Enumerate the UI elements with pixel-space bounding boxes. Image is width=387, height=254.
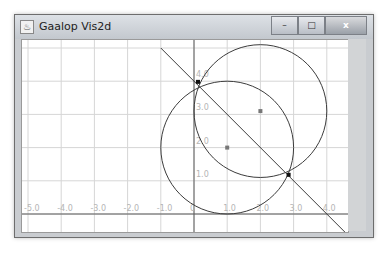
y-tick-label: 3.0 bbox=[196, 103, 209, 112]
x-tick-label: -2.0 bbox=[124, 204, 140, 213]
center-b-point bbox=[225, 146, 229, 150]
window-controls: – □ x bbox=[271, 16, 367, 33]
x-tick-label: 2.0 bbox=[256, 204, 269, 213]
intersection-2-point bbox=[287, 173, 291, 177]
x-tick-label: 3.0 bbox=[290, 204, 303, 213]
center-a-point bbox=[258, 109, 262, 113]
x-tick-label: -3.0 bbox=[90, 204, 106, 213]
plot-svg[interactable]: -5.0-4.0-3.0-2.0-1.001.02.03.04.01.02.03… bbox=[22, 40, 348, 232]
intersection-1-point bbox=[196, 80, 200, 84]
x-tick-label: -5.0 bbox=[24, 204, 40, 213]
x-tick-label: -1.0 bbox=[157, 204, 173, 213]
right-panel bbox=[348, 39, 366, 231]
x-tick-label: 1.0 bbox=[223, 204, 236, 213]
title-bar[interactable]: ♨ Gaalop Vis2d – □ x bbox=[15, 15, 373, 39]
x-tick-label: -4.0 bbox=[57, 204, 73, 213]
minimize-button[interactable]: – bbox=[271, 16, 298, 35]
close-button[interactable]: x bbox=[325, 16, 367, 35]
window-title: Gaalop Vis2d bbox=[39, 20, 111, 33]
y-tick-label: 1.0 bbox=[196, 170, 209, 179]
app-window: ♨ Gaalop Vis2d – □ x -5.0-4.0-3.0-2.0-1.… bbox=[14, 14, 374, 238]
plot-canvas[interactable]: -5.0-4.0-3.0-2.0-1.001.02.03.04.01.02.03… bbox=[21, 39, 349, 233]
maximize-button[interactable]: □ bbox=[298, 16, 325, 35]
java-app-icon: ♨ bbox=[20, 20, 34, 34]
